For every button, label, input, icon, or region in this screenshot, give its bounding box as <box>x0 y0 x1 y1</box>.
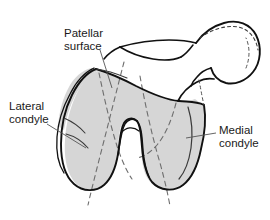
medial-condyle-label-line1: Medial <box>219 124 253 136</box>
articular-shading-group <box>58 68 205 190</box>
lateral-condyle-label: Lateral condyle <box>9 100 49 125</box>
head-inner-arc-dotted-line <box>246 38 249 68</box>
anatomical-figure: Patellar surface Lateral condyle Medial … <box>0 0 270 220</box>
patellar-surface-label-line2: surface <box>64 40 102 52</box>
lateral-condyle-label-line2: condyle <box>9 113 49 125</box>
medial-condyle-label-line2: condyle <box>219 137 259 149</box>
shaft-neck-upper-line <box>120 47 181 60</box>
patellar-surface-label-line1: Patellar <box>64 27 103 39</box>
medial-condyle-label: Medial condyle <box>219 124 259 149</box>
femur-diagram-svg: Patellar surface Lateral condyle Medial … <box>0 0 270 220</box>
lateral-condyle-label-line1: Lateral <box>9 100 44 112</box>
patellar-surface-label: Patellar surface <box>64 27 106 52</box>
shaft-left-taper-line <box>104 47 120 59</box>
greater-trochanter-head-contour <box>196 22 260 84</box>
femoral-shaft-lower-contour <box>178 79 214 101</box>
femoral-shaft-upper-contour <box>120 40 196 47</box>
posterior-shaft-faint-line <box>199 80 204 105</box>
shaft-neck-lower-line <box>181 45 193 57</box>
